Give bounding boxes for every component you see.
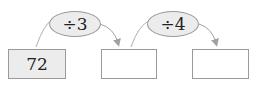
answer-box-2[interactable] [192,49,249,79]
operation-divide-3: ÷3 [49,11,101,37]
arrow-1-head [100,24,118,43]
operation-divide-4: ÷4 [147,11,199,37]
arrow-2-head [199,24,216,43]
answer-box-1[interactable] [101,49,157,79]
start-value-box: 72 [8,49,66,79]
